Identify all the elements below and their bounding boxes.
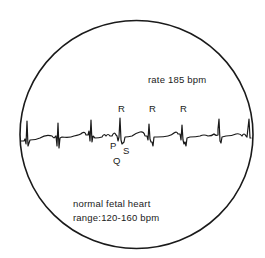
s-wave-label: S [123,146,129,156]
r-wave-label-1: R [118,104,125,114]
ecg-trace [21,118,251,148]
q-wave-label: Q [113,156,120,166]
heart-rate-label: rate 185 bpm [148,75,206,85]
normal-range-title: normal fetal heart [73,199,151,209]
fetal-ecg-diagram: rate 185 bpm R R R P S Q normal fetal he… [0,0,265,258]
r-wave-label-3: R [180,104,187,114]
p-wave-label: P [110,141,116,151]
r-wave-label-2: R [149,104,156,114]
normal-range-values: range:120-160 bpm [73,213,159,223]
